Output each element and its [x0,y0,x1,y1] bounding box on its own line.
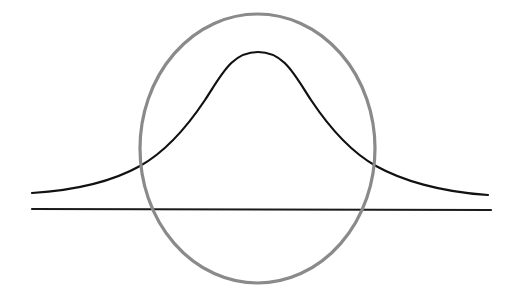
baseline-axis [32,209,491,210]
highlight-ellipse [140,14,375,283]
diagram-canvas [0,0,509,302]
diagram-svg [0,0,509,302]
bell-curve [32,52,488,195]
